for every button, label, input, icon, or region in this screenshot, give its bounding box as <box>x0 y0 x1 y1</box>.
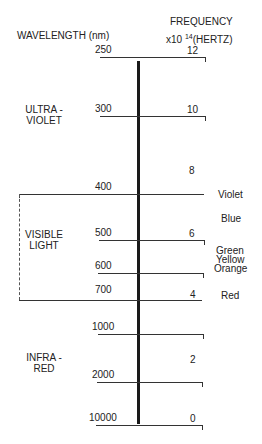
wavelength-tick-300: 300 <box>95 103 112 114</box>
frequency-tick-0: 0 <box>190 413 196 424</box>
wavelength-axis-title: WAVELENGTH (nm) <box>17 30 109 41</box>
tick-end <box>205 57 206 62</box>
tick-end <box>203 273 204 278</box>
frequency-tick-6: 6 <box>189 228 195 239</box>
frequency-tick-12: 12 <box>187 45 198 56</box>
region-ultraviolet: ULTRA -VIOLET <box>22 104 66 126</box>
wavelength-tick-2000: 2000 <box>92 369 114 380</box>
tick-line-2000 <box>97 382 202 383</box>
frequency-tick-2: 2 <box>190 354 196 365</box>
wavelength-tick-400: 400 <box>95 181 112 192</box>
tick-end <box>205 116 206 121</box>
tick-line-1000 <box>98 334 203 335</box>
tick-line-10000 <box>96 425 202 426</box>
tick-end <box>202 425 203 430</box>
tick-line-600 <box>98 273 203 274</box>
color-orange: Orange <box>214 264 247 273</box>
tick-line-300 <box>100 116 205 117</box>
wavelength-tick-500: 500 <box>95 227 112 238</box>
wavelength-tick-700: 700 <box>95 284 112 295</box>
wavelength-tick-1000: 1000 <box>92 321 114 332</box>
wavelength-tick-600: 600 <box>95 260 112 271</box>
tick-line-500 <box>99 240 204 241</box>
wavelength-tick-250: 250 <box>95 44 112 55</box>
color-blue: Blue <box>221 213 241 224</box>
frequency-tick-10: 10 <box>187 104 198 115</box>
region-infrared: INFRA -RED <box>24 352 64 374</box>
region-visible-light: VISIBLELIGHT <box>23 229 65 251</box>
frequency-axis-title: FREQUENCY <box>170 16 233 27</box>
tick-end <box>203 334 204 339</box>
tick-line-700 <box>19 300 202 301</box>
tick-line-250 <box>100 57 205 58</box>
frequency-tick-8: 8 <box>189 165 195 176</box>
visible-bracket <box>19 194 20 300</box>
color-violet: Violet <box>218 189 243 200</box>
tick-end <box>202 382 203 387</box>
frequency-tick-4: 4 <box>190 289 196 300</box>
color-red: Red <box>221 290 239 301</box>
wavelength-tick-10000: 10000 <box>89 412 117 423</box>
tick-line-400-violet <box>19 194 204 195</box>
tick-end <box>204 240 205 245</box>
frequency-axis-unit: x10 14(HERTZ) <box>166 31 233 45</box>
